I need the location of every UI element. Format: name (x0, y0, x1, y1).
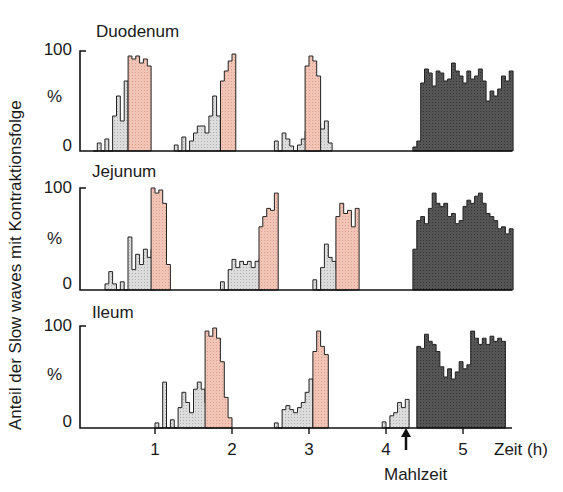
histogram-phase3 (313, 331, 328, 428)
panel-title-duodenum: Duodenum (96, 22, 179, 42)
histogram-phase3 (128, 56, 151, 151)
histogram-phase2 (274, 379, 313, 428)
ytick-100: 100 (32, 178, 72, 198)
x-axis-ticks (155, 428, 463, 434)
ytick-100: 100 (32, 40, 72, 60)
arrow-up-icon (401, 428, 411, 450)
histogram-fed (413, 63, 513, 151)
panel-title-ileum: Ileum (92, 303, 134, 323)
histogram-phase2 (221, 259, 263, 290)
histogram-phase3 (205, 328, 232, 428)
chart-canvas (0, 0, 563, 492)
histogram-phase3 (259, 193, 278, 290)
histogram-phase3 (305, 56, 321, 151)
histogram-phase2 (155, 372, 213, 428)
histogram-phase2 (274, 121, 332, 151)
ytick-percent: % (22, 87, 62, 107)
histogram-phase3 (221, 54, 236, 151)
ytick-0: 0 (32, 274, 72, 294)
panel-title-jejunum: Jejunum (92, 162, 156, 182)
panel-ileum (80, 326, 512, 428)
panel-duodenum (80, 51, 513, 151)
ytick-percent: % (22, 365, 62, 385)
ytick-0: 0 (32, 412, 72, 432)
histogram-phase2 (174, 96, 220, 151)
histogram-fed (413, 193, 513, 290)
histogram-phase2 (382, 399, 409, 428)
histogram-phase2 (105, 237, 155, 290)
panel-jejunum (80, 188, 513, 290)
histogram-phase3 (336, 203, 359, 290)
histogram-fed (417, 331, 506, 428)
histogram-panels (80, 51, 513, 428)
ytick-0: 0 (32, 136, 72, 156)
xtick-5: 5 (458, 440, 467, 460)
x-axis-unit-label: Zeit (h) (494, 440, 548, 460)
meal-annotation: Mahlzeit (384, 465, 447, 485)
ytick-100: 100 (32, 316, 72, 336)
xtick-3: 3 (304, 440, 313, 460)
histogram-phase3 (151, 188, 170, 290)
xtick-2: 2 (227, 440, 236, 460)
histogram-phase2 (93, 81, 128, 151)
xtick-4: 4 (381, 440, 390, 460)
xtick-1: 1 (150, 440, 159, 460)
ytick-percent: % (22, 229, 62, 249)
